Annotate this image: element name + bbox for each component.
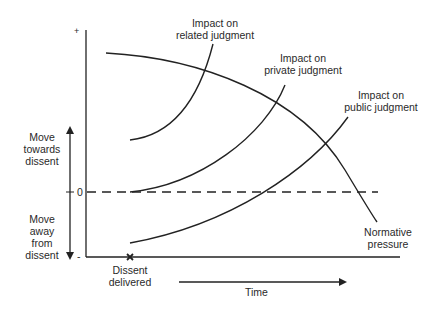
- related-judgment-curve: [130, 44, 213, 140]
- normative-pressure-curve: [106, 53, 377, 222]
- private-judgment-label: Impact on private judgment: [258, 52, 348, 76]
- plus-label: +: [74, 25, 79, 37]
- diagram-canvas: [0, 0, 445, 314]
- private-judgment-curve: [130, 85, 285, 192]
- time-label: Time: [245, 286, 268, 298]
- dissent-delivered-label: Dissent delivered: [105, 264, 155, 288]
- minus-label: -: [77, 250, 81, 262]
- move-towards-dissent-label: Move towards dissent: [18, 131, 66, 167]
- public-judgment-label: Impact on public judgment: [336, 89, 426, 113]
- move-away-from-dissent-label: Move away from dissent: [18, 213, 66, 261]
- zero-label: 0: [77, 186, 83, 198]
- public-judgment-curve: [130, 117, 348, 243]
- related-judgment-label: Impact on related judgment: [170, 17, 260, 41]
- normative-pressure-label: Normative pressure: [358, 226, 418, 250]
